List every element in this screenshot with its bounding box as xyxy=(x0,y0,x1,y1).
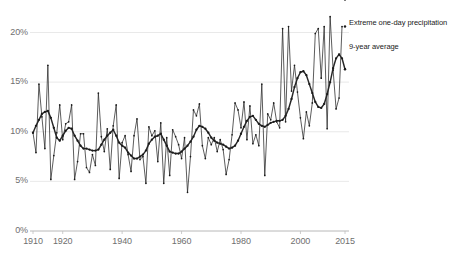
chart-plot-area xyxy=(0,0,449,259)
series-extreme-one-day-precipitation-markers xyxy=(32,0,346,193)
series-extreme-one-day-precipitation xyxy=(33,17,342,193)
x-tick-label: 1920 xyxy=(46,236,80,246)
y-tick-label: 5% xyxy=(2,175,28,185)
y-tick-label: 10% xyxy=(2,126,28,136)
x-tick-label: 1960 xyxy=(165,236,199,246)
x-tick-label: 2015 xyxy=(328,236,362,246)
series-label-9-year-average: 9-year average xyxy=(349,42,399,51)
y-tick-label: 0% xyxy=(2,225,28,235)
y-tick-label: 20% xyxy=(2,27,28,37)
x-tick-label: 2000 xyxy=(283,236,317,246)
series-label-extreme-one-day-precipitation: Extreme one-day precipitation xyxy=(349,18,447,27)
gridlines-group xyxy=(30,33,349,232)
x-tick-label: 1940 xyxy=(105,236,139,246)
x-tick-label: 1980 xyxy=(224,236,258,246)
y-tick-label: 15% xyxy=(2,76,28,86)
chart-container: 0%5%10%15%20% 19101920194019601980200020… xyxy=(0,0,449,259)
